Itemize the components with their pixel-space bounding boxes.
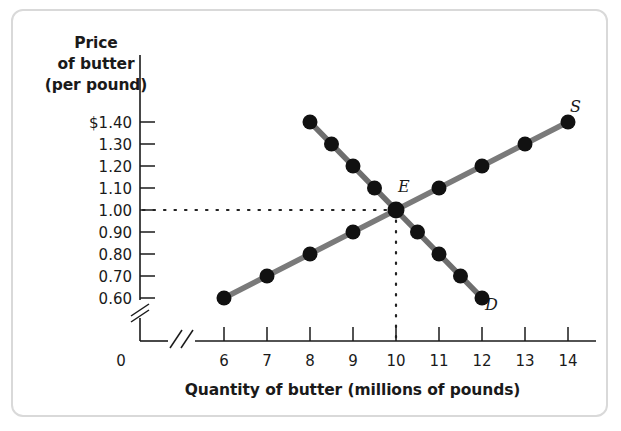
x-axis-break-mark-2 <box>181 330 193 348</box>
supply-point-13-1-30 <box>518 137 533 152</box>
supply-point-9-0-90 <box>346 225 361 240</box>
demand-point-0-90 <box>410 225 425 240</box>
y-axis-break-mark <box>131 304 149 316</box>
demand-point-1-30 <box>324 137 339 152</box>
supply-point-7-0-70 <box>260 269 275 284</box>
supply-point-6-0-60 <box>217 291 232 306</box>
demand-point-0-70 <box>453 269 468 284</box>
demand-point-9-1-20 <box>346 159 361 174</box>
supply-point-12-1-20 <box>475 159 490 174</box>
supply-point-14-1-40 <box>561 115 576 130</box>
plot-area <box>0 0 621 431</box>
supply-demand-figure: Price of butter (per pound) Quantity of … <box>0 0 621 431</box>
demand-point-8-1-40 <box>303 115 318 130</box>
demand-point-11-0-80 <box>432 247 447 262</box>
x-axis-break-mark <box>170 330 182 348</box>
supply-point-8-0-80 <box>303 247 318 262</box>
equilibrium-point-marker <box>388 202 405 219</box>
demand-point-12-0-60 <box>475 291 490 306</box>
demand-point-1-10 <box>367 181 382 196</box>
supply-point-11-1-10 <box>432 181 447 196</box>
